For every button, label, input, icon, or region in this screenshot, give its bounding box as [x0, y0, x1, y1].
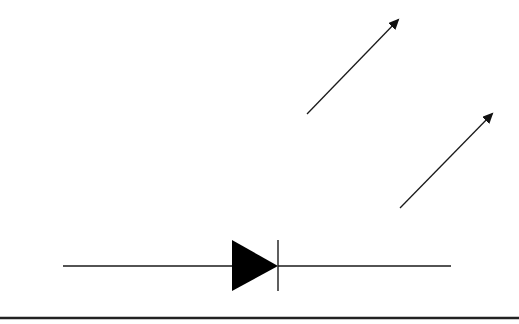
- diagram-canvas: [0, 0, 519, 324]
- emission-arrow-2-icon: [400, 114, 492, 208]
- anode-triangle: [232, 240, 278, 291]
- emission-arrow-1-icon: [307, 20, 398, 114]
- led-symbol: [63, 20, 492, 291]
- led-diagram: [0, 0, 519, 324]
